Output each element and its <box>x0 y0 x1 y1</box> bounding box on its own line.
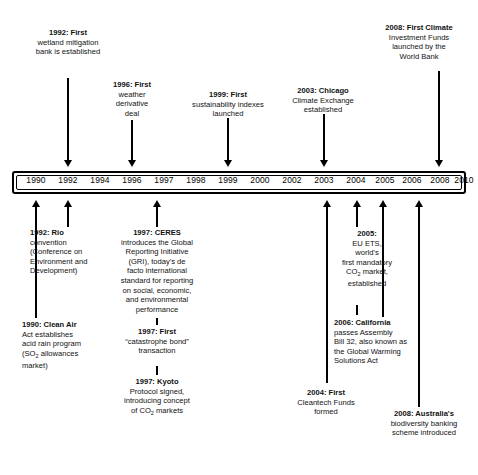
note-line: Act establishes <box>22 330 108 340</box>
note-line: convention <box>30 238 108 248</box>
note-line: (GRI), today's de <box>107 257 207 267</box>
year-tick-1996: 1996 <box>122 175 141 186</box>
note-line: CO2 market, <box>330 267 404 279</box>
note-year: 2008: Australia's <box>394 409 454 418</box>
note-year: 1997: First <box>138 327 176 336</box>
note-1990-clean-air-act: 1990: Clean Air Act establishes acid rai… <box>22 320 108 370</box>
note-line: standard for reporting <box>107 276 207 286</box>
year-tick-1999: 1999 <box>218 175 237 186</box>
note-line: bank is established <box>13 47 123 57</box>
note-line: world's <box>330 248 404 258</box>
note-year: 1990: Clean Air <box>22 320 77 329</box>
note-line: passes Assembly <box>334 328 432 338</box>
note-line: established <box>267 105 379 115</box>
note-line: transaction <box>110 346 204 356</box>
year-tick-1992: 1992 <box>58 175 77 186</box>
note-2003-chicago-climate-exchange: 2003: Chicago Climate Exchange establish… <box>267 86 379 115</box>
note-line: EU ETS, <box>330 239 404 249</box>
note-line: wetland mitigation <box>13 38 123 48</box>
note-line: Investment Funds <box>364 33 474 43</box>
timeline-axis-inner-border <box>16 175 462 190</box>
note-year: 2008: First Climate <box>385 23 453 32</box>
note-line: Environment and <box>30 257 108 267</box>
year-tick-1994: 1994 <box>90 175 109 186</box>
note-year: 2004: First <box>307 388 345 397</box>
note-1997-kyoto-protocol: 1997: Kyoto Protocol signed, introducing… <box>110 377 204 418</box>
note-line: formed <box>284 407 368 417</box>
note-year: 1996: First <box>113 80 151 89</box>
note-line: established <box>330 279 404 289</box>
year-tick-2000: 2000 <box>250 175 269 186</box>
note-line: Solutions Act <box>334 356 432 366</box>
note-2005-eu-ets: 2005: EU ETS, world's first mandatory CO… <box>330 229 404 289</box>
note-line: Reporting Initiative <box>107 247 207 257</box>
note-year: 1992: First <box>49 28 87 37</box>
note-line: Protocol signed, <box>110 387 204 397</box>
note-year: 1997: CERES <box>133 228 181 237</box>
timeline-axis <box>12 171 466 194</box>
note-line: (Conference on <box>30 247 108 257</box>
note-line: introducing concept <box>110 396 204 406</box>
note-line: (SO2 allowances <box>22 349 108 361</box>
note-line: scheme introduced <box>372 428 476 438</box>
year-tick-2004: 2004 <box>346 175 365 186</box>
note-1997-ceres-gri: 1997: CERES introduces the Global Report… <box>107 228 207 314</box>
year-tick-2003: 2003 <box>314 175 333 186</box>
note-year: 1997: Kyoto <box>135 377 178 386</box>
note-1996-weather-derivative: 1996: First weather derivative deal <box>96 80 168 118</box>
year-tick-1990: 1990 <box>26 175 45 186</box>
note-2008-climate-investment-funds: 2008: First Climate Investment Funds lau… <box>364 23 474 61</box>
note-line: deal <box>96 109 168 119</box>
note-line: biodiversity banking <box>372 419 476 429</box>
year-tick-2005: 2005 <box>375 175 394 186</box>
note-line: World Bank <box>364 52 474 62</box>
note-year: 2003: Chicago <box>297 86 349 95</box>
note-year: 1999: First <box>209 90 247 99</box>
note-year: 2006: California <box>334 318 391 327</box>
note-line: facto international <box>107 266 207 276</box>
note-line: and environmental <box>107 295 207 305</box>
note-year: 2005: <box>357 229 376 238</box>
note-line: introduces the Global <box>107 238 207 248</box>
note-line: launched by the <box>364 42 474 52</box>
note-line: on social, economic, <box>107 286 207 296</box>
note-line: Climate Exchange <box>267 96 379 106</box>
year-tick-2010: 2010 <box>454 175 473 186</box>
note-2004-cleantech-funds: 2004: First Cleantech Funds formed <box>284 388 368 417</box>
note-1997-catastrophe-bond: 1997: First “catastrophe bond” transacti… <box>110 327 204 356</box>
note-line: of CO2 markets <box>110 406 204 418</box>
note-line: Cleantech Funds <box>284 398 368 408</box>
year-tick-1998: 1998 <box>186 175 205 186</box>
note-line: the Global Warming <box>334 347 432 357</box>
note-line: derivative <box>96 99 168 109</box>
note-line: Bill 32, also known as <box>334 337 432 347</box>
note-line: market) <box>22 361 108 371</box>
note-line: acid rain program <box>22 339 108 349</box>
note-year: 1992: Rio <box>30 228 64 237</box>
note-1992-rio: 1992: Rio convention (Conference on Envi… <box>30 228 108 276</box>
note-2006-california-ab32: 2006: California passes Assembly Bill 32… <box>334 318 432 366</box>
note-2008-australia-biodiversity: 2008: Australia's biodiversity banking s… <box>372 409 476 438</box>
note-line: first mandatory <box>330 258 404 268</box>
note-line: weather <box>96 90 168 100</box>
note-line: “catastrophe bond” <box>110 337 204 347</box>
note-line: performance <box>107 305 207 315</box>
year-tick-2002: 2002 <box>282 175 301 186</box>
year-tick-2008: 2008 <box>430 175 449 186</box>
year-tick-2006: 2006 <box>402 175 421 186</box>
year-tick-1997: 1997 <box>154 175 173 186</box>
note-1992-wetland: 1992: First wetland mitigation bank is e… <box>13 28 123 57</box>
note-line: Development) <box>30 266 108 276</box>
